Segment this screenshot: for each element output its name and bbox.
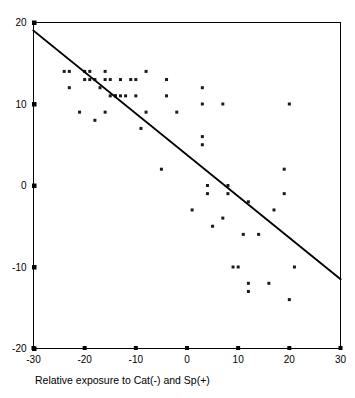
data-point-marker [93,119,96,122]
data-point-marker [206,184,209,187]
y-tick-label: 10 [15,99,27,110]
data-point-marker [211,225,214,228]
regression-line [34,31,341,280]
x-tick-mark [339,346,343,350]
y-tick-label: 20 [15,17,27,28]
x-tick-mark [236,346,240,350]
data-point-marker [221,103,224,106]
data-point-marker [288,298,291,301]
data-point-marker [201,103,204,106]
plot-canvas: -20-1001020 -30-20-100102030 Relative ex… [0,0,355,398]
data-point-marker [267,282,270,285]
x-tick-label: 10 [233,354,245,365]
data-point-marker [247,290,250,293]
data-point-marker [165,78,168,81]
data-point-marker [257,233,260,236]
y-tick-mark [32,184,37,189]
data-point-marker [242,233,245,236]
data-point-marker [201,143,204,146]
data-point-marker [88,78,91,81]
data-point-marker [63,70,66,73]
data-point-marker [139,127,142,130]
data-points-layer [63,70,296,301]
x-tick-label: -30 [26,354,41,365]
data-point-marker [226,192,229,195]
data-point-marker [237,266,240,269]
data-point-marker [283,192,286,195]
data-point-marker [288,103,291,106]
data-point-marker [68,70,71,73]
x-tick-label: 30 [335,354,347,365]
x-tick-mark [185,346,189,350]
data-point-marker [160,168,163,171]
y-tick-label: -10 [12,262,27,273]
data-point-marker [104,111,107,114]
data-point-marker [247,282,250,285]
x-tick-mark [83,346,87,350]
x-tick-label: -20 [77,354,92,365]
data-point-marker [88,70,91,73]
y-tick-mark [32,102,37,107]
data-point-marker [201,86,204,89]
data-point-marker [83,78,86,81]
data-point-marker [129,78,132,81]
data-point-marker [293,266,296,269]
data-point-marker [191,208,194,211]
data-point-marker [175,111,178,114]
x-tick-mark [287,346,291,350]
data-point-marker [119,78,122,81]
data-point-marker [221,217,224,220]
x-axis-title: Relative exposure to Cat(-) and Sp(+) [35,374,210,386]
data-point-marker [68,86,71,89]
data-point-marker [119,94,122,97]
x-tick-label: 0 [184,354,190,365]
data-point-marker [206,192,209,195]
data-point-marker [109,78,112,81]
data-point-marker [145,111,148,114]
y-tick-mark [32,265,37,270]
scatter-plot-figure: -20-1001020 -30-20-100102030 Relative ex… [0,0,355,398]
data-point-marker [232,266,235,269]
y-tick-label: 0 [21,180,27,191]
data-point-marker [124,94,127,97]
x-tick-mark [32,346,36,350]
data-point-marker [104,70,107,73]
y-axis-ticks: -20-1001020 [12,17,36,354]
data-point-marker [165,94,168,97]
data-point-marker [201,135,204,138]
data-point-marker [145,70,148,73]
data-point-marker [134,78,137,81]
data-point-marker [78,111,81,114]
x-tick-mark [134,346,138,350]
data-point-marker [104,78,107,81]
y-tick-mark [32,21,37,26]
x-tick-label: -10 [129,354,144,365]
x-tick-label: 20 [284,354,296,365]
data-point-marker [272,208,275,211]
data-point-marker [283,168,286,171]
data-point-marker [134,94,137,97]
y-tick-label: -20 [12,343,27,354]
data-point-marker [99,86,102,89]
